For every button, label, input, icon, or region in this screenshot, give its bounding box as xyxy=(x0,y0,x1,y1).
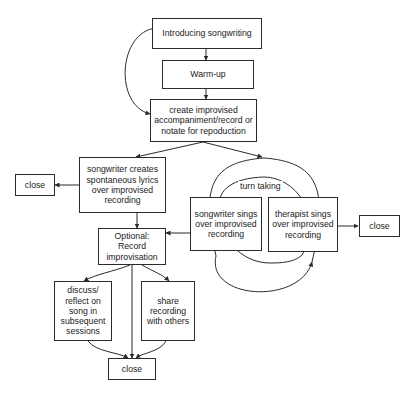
edge-optional-discuss xyxy=(84,265,130,281)
edge-share-close-bottom xyxy=(136,341,166,358)
node-label: Introducing songwriting xyxy=(156,28,258,38)
node-label: songwriter sings over improvised recordi… xyxy=(194,209,258,240)
edge-discuss-close-bottom xyxy=(88,341,128,358)
node-label: songwriter creates spontaneous lyrics ov… xyxy=(83,164,162,205)
edge-create-songwriter-creates xyxy=(136,142,203,157)
node-label: Warm-up xyxy=(166,69,250,79)
node-songwriter-creates-lyrics[interactable]: songwriter creates spontaneous lyrics ov… xyxy=(79,157,166,213)
node-warm-up[interactable]: Warm-up xyxy=(162,60,254,89)
node-label: create improvised accompaniment/record o… xyxy=(154,105,253,136)
node-discuss-reflect[interactable]: discuss/ reflect on song in subsequent s… xyxy=(54,281,112,341)
node-close-right[interactable]: close xyxy=(359,215,400,237)
node-close-bottom[interactable]: close xyxy=(108,358,156,380)
flowchart-canvas: Introducing songwriting Warm-up create i… xyxy=(0,0,415,395)
edge-create-cycle xyxy=(203,142,262,157)
node-label: share recording with others xyxy=(145,296,191,327)
node-label: discuss/ reflect on song in subsequent s… xyxy=(58,285,108,336)
node-songwriter-sings[interactable]: songwriter sings over improvised recordi… xyxy=(190,197,262,251)
node-therapist-sings[interactable]: therapist sings over improvised recordin… xyxy=(268,197,338,252)
node-close-left[interactable]: close xyxy=(15,174,55,196)
node-optional-record-improvisation[interactable]: Optional: Record improvisation xyxy=(98,228,166,265)
node-introducing-songwriting[interactable]: Introducing songwriting xyxy=(152,18,262,49)
edge-optional-share xyxy=(142,265,169,281)
node-create-improvised[interactable]: create improvised accompaniment/record o… xyxy=(150,99,257,142)
node-label: close xyxy=(19,180,51,190)
node-label: close xyxy=(363,221,396,231)
node-label: Optional: Record improvisation xyxy=(102,231,162,262)
node-label: therapist sings over improvised recordin… xyxy=(272,209,334,240)
node-share-recording[interactable]: share recording with others xyxy=(141,281,195,341)
node-label: close xyxy=(112,364,152,374)
edge-cycle-outer-arc xyxy=(215,256,312,292)
cycle-label-turn-taking: turn taking xyxy=(238,181,283,191)
